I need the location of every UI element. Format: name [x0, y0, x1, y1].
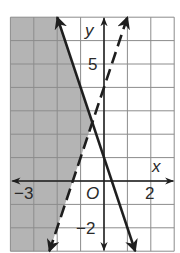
x-axis-label: x	[151, 157, 161, 176]
y-axis-label: y	[84, 21, 95, 40]
x-tick-label-2: 2	[145, 184, 154, 203]
x-tick-label-neg3: −3	[14, 184, 33, 203]
y-tick-label-5: 5	[88, 55, 97, 74]
origin-label: O	[86, 184, 99, 203]
y-tick-label-neg2: −2	[76, 219, 95, 238]
coordinate-graph: y x O −3 2 5 −2	[0, 0, 180, 253]
